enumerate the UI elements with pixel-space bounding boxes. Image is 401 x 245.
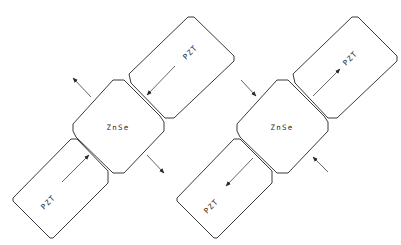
left-external-arrow-top-icon	[73, 78, 91, 97]
right-external-arrow-top-icon	[241, 80, 256, 96]
left-crystal-label: ZnSe	[107, 123, 130, 132]
diagram-canvas: PZT PZT ZnSe PZT PZT	[0, 0, 401, 245]
left-external-arrow-bottom-icon	[147, 155, 164, 173]
right-crystal-label: ZnSe	[271, 123, 294, 132]
right-external-arrow-bottom-icon	[313, 157, 328, 172]
